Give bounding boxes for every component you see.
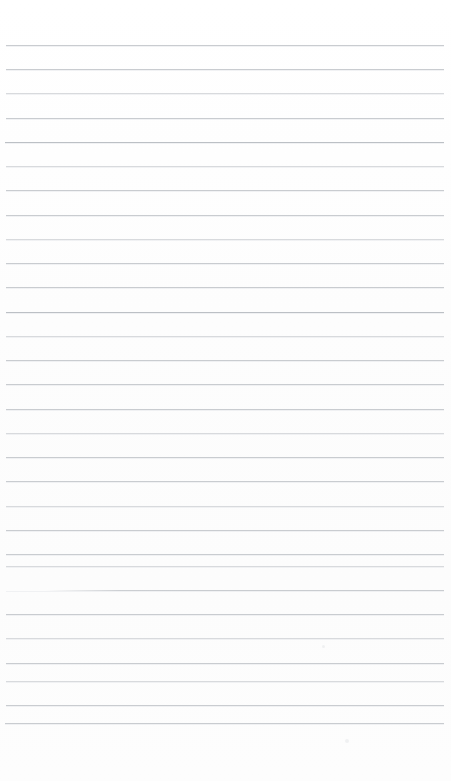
- ruled-line: [6, 263, 444, 264]
- ruled-line: [6, 590, 444, 591]
- ruled-line: [6, 638, 444, 639]
- ruled-line: [6, 566, 444, 567]
- ruled-line: [6, 360, 444, 361]
- ruled-line: [6, 409, 444, 410]
- ruled-line: [6, 336, 444, 337]
- ruled-line: [6, 481, 444, 482]
- ruled-line: [6, 506, 444, 507]
- ruled-line: [6, 215, 444, 216]
- ruled-line: [6, 93, 444, 94]
- ruled-line: [6, 190, 444, 191]
- ruled-line: [6, 118, 444, 119]
- ruled-line: [6, 681, 444, 682]
- ruled-line: [6, 384, 444, 385]
- ruled-line: [6, 312, 444, 313]
- ruled-line: [6, 69, 444, 70]
- ruled-line: [6, 239, 444, 240]
- ruled-line: [5, 142, 444, 143]
- scan-speck: [322, 645, 325, 648]
- ruled-line: [6, 663, 444, 664]
- ruled-line: [6, 166, 444, 167]
- ruled-line: [6, 287, 444, 288]
- scanned-page: [0, 0, 451, 781]
- ruled-line: [6, 457, 444, 458]
- ruled-line-layer: [0, 0, 451, 781]
- ruled-line: [6, 705, 444, 706]
- ruled-line: [6, 433, 444, 434]
- ruled-line: [6, 554, 444, 555]
- ruled-line: [6, 614, 444, 615]
- ruled-line: [5, 723, 444, 724]
- ruled-line: [6, 530, 444, 531]
- ruled-line: [6, 45, 444, 46]
- scan-speck: [345, 739, 349, 743]
